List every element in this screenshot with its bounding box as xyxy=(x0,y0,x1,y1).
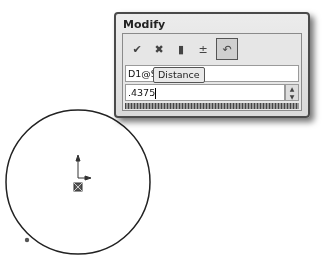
dimension-value-input[interactable]: .4375 xyxy=(125,84,285,101)
check-icon: ✔ xyxy=(132,43,141,56)
tooltip: Distance xyxy=(153,67,205,83)
dimension-name-field[interactable]: D1@Sk xyxy=(125,65,299,82)
origin-icon xyxy=(74,155,91,191)
close-icon: ✖ xyxy=(154,43,163,56)
spin-up-icon[interactable]: ▲ xyxy=(290,85,295,93)
cancel-button[interactable]: ✖ xyxy=(150,39,168,59)
spin-down-icon[interactable]: ▼ xyxy=(290,93,295,101)
text-caret xyxy=(155,88,156,99)
traffic-light-icon: ▮ xyxy=(178,43,184,56)
dialog-title: Modify xyxy=(123,18,165,31)
ok-button[interactable]: ✔ xyxy=(128,39,146,59)
sketch-circle[interactable] xyxy=(6,110,150,254)
value-spinner[interactable]: ▲ ▼ xyxy=(285,84,299,101)
reset-spin-increment-button[interactable]: ± xyxy=(194,39,212,59)
mark-for-drawing-icon: ↶ xyxy=(222,43,231,56)
sketch-point[interactable] xyxy=(25,238,29,242)
spin-increment-icon: ± xyxy=(198,43,207,56)
mark-dimension-button[interactable]: ↶ xyxy=(216,38,238,60)
dialog-body: ✔ ✖ ▮ ± ↶ D1@Sk .4375 ▲ ▼ Distance xyxy=(122,33,302,111)
dialog-toolbar: ✔ ✖ ▮ ± ↶ xyxy=(125,36,299,62)
rebuild-button[interactable]: ▮ xyxy=(172,39,190,59)
thumbwheel-slider[interactable] xyxy=(125,103,299,109)
modify-dialog: Modify ✔ ✖ ▮ ± ↶ D1@Sk .4375 ▲ xyxy=(114,12,310,118)
